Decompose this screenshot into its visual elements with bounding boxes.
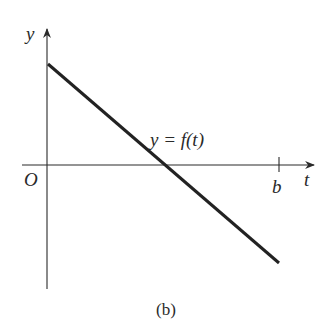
t-axis-label: t <box>304 169 310 190</box>
figure-caption: (b) <box>156 300 176 319</box>
figure-canvas: y t O b y = f(t) (b) <box>0 0 329 332</box>
y-axis-label: y <box>24 23 35 44</box>
origin-label: O <box>24 169 38 190</box>
curve-label: y = f(t) <box>148 129 204 151</box>
function-line <box>48 64 279 263</box>
tick-label-b: b <box>272 176 282 197</box>
